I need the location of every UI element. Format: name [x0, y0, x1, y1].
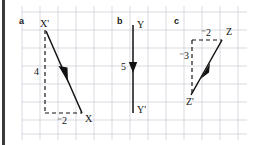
panel-b-point-y-prime-label: Y' — [137, 105, 146, 115]
panel-b-point-y-label: Y — [137, 20, 144, 30]
panel-a-letter: a — [19, 17, 24, 26]
panel-a-point-x-prime-label: X' — [40, 19, 49, 29]
panel-c-vertical-measure-label: ⁻3 — [179, 51, 189, 61]
panel-c-point-z-label: Z — [226, 27, 232, 37]
panel-c-horizontal-measure-label: ⁻2 — [201, 28, 211, 38]
grid-lines — [22, 6, 247, 140]
panel-b-vertical-measure-label: 5 — [121, 62, 126, 72]
panel-a-diagram — [45, 30, 82, 113]
panel-c-letter: c — [174, 17, 179, 26]
panel-a-horizontal-measure-label: ⁻2 — [57, 116, 67, 126]
panel-a-vertical-measure-label: 4 — [34, 67, 39, 77]
panel-c-point-z-prime-label: Z' — [186, 97, 194, 107]
panel-a-point-x-label: X — [85, 114, 92, 124]
panel-b-letter: b — [117, 17, 123, 26]
